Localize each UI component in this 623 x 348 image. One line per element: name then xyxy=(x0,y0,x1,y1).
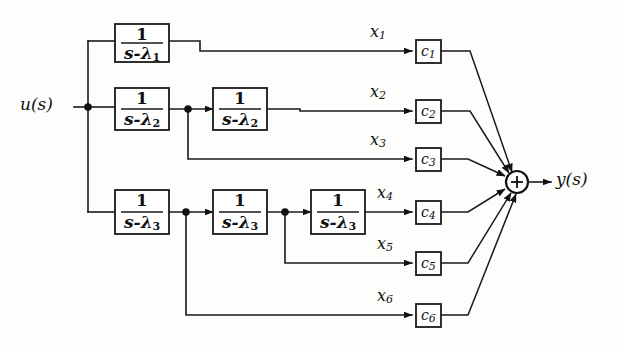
output-label: y(s) xyxy=(556,171,588,188)
summing-inputs xyxy=(441,51,516,315)
integrator-3a-numerator: 1 xyxy=(136,192,148,209)
row3-path xyxy=(169,212,412,315)
summing-junction xyxy=(506,171,528,193)
integrator-3c-den-sub: 3 xyxy=(349,220,357,233)
input-label: u(s) xyxy=(20,96,53,113)
state-label-x1: x1 xyxy=(370,24,386,41)
state-x4-base: x xyxy=(377,183,386,202)
gain-c3-base: c xyxy=(421,151,429,167)
state-label-x4: x4 xyxy=(377,185,393,202)
gain-c4-base: c xyxy=(421,204,429,220)
integrator-3a-denominator: s-λ3 xyxy=(124,214,160,232)
integrator-1-den-base: s-λ xyxy=(124,43,153,63)
state-x6-base: x xyxy=(377,286,386,305)
state-x6-sub: 6 xyxy=(386,293,393,306)
gain-c2-sub: 2 xyxy=(429,108,436,121)
integrator-3c-den-base: s-λ xyxy=(320,212,349,232)
integrator-3a-den-base: s-λ xyxy=(124,212,153,232)
state-label-x2: x2 xyxy=(370,84,386,101)
integrator-3b-denominator: s-λ3 xyxy=(222,214,258,232)
integrator-2b-den-sub: 2 xyxy=(251,117,259,130)
gain-label-c1: c1 xyxy=(421,44,436,60)
gain-label-c6: c6 xyxy=(421,308,436,324)
state-x3-sub: 3 xyxy=(379,137,386,150)
gain-label-c2: c2 xyxy=(421,104,436,120)
gain-label-c4: c4 xyxy=(421,205,436,221)
state-x5-sub: 5 xyxy=(386,241,393,254)
state-label-x3: x3 xyxy=(370,132,386,149)
integrator-1-numerator: 1 xyxy=(136,26,148,43)
integrator-2b-numerator: 1 xyxy=(234,90,246,107)
integrator-2b-denominator: s-λ2 xyxy=(222,111,258,129)
integrator-3b-den-sub: 3 xyxy=(251,220,259,233)
gain-c6-base: c xyxy=(421,307,429,323)
row1-path xyxy=(169,41,412,51)
gain-label-c5: c5 xyxy=(421,256,436,272)
integrator-3a-den-sub: 3 xyxy=(153,220,161,233)
integrator-1-den-sub: 1 xyxy=(153,51,161,64)
input-trunk xyxy=(74,41,115,212)
state-x3-base: x xyxy=(370,130,379,149)
junction-dot-after-int3a xyxy=(182,208,190,216)
state-x4-sub: 4 xyxy=(386,190,393,203)
state-x2-base: x xyxy=(370,82,379,101)
state-x2-sub: 2 xyxy=(379,89,386,102)
gain-c5-sub: 5 xyxy=(429,260,436,273)
integrator-2a-numerator: 1 xyxy=(136,90,148,107)
gain-c1-base: c xyxy=(421,43,429,59)
gain-c4-sub: 4 xyxy=(429,209,436,222)
block-diagram-figure: u(s) y(s) 1 s-λ1 1 s-λ2 1 s-λ2 1 s-λ3 1 … xyxy=(0,0,623,348)
integrator-2a-den-sub: 2 xyxy=(153,117,161,130)
state-x1-base: x xyxy=(370,22,379,41)
integrator-2a-den-base: s-λ xyxy=(124,109,153,129)
state-x5-base: x xyxy=(377,234,386,253)
state-x1-sub: 1 xyxy=(379,29,386,42)
gain-c5-base: c xyxy=(421,255,429,271)
integrator-2a-denominator: s-λ2 xyxy=(124,111,160,129)
state-label-x6: x6 xyxy=(377,288,393,305)
gain-c2-base: c xyxy=(421,103,429,119)
gain-label-c3: c3 xyxy=(421,152,436,168)
integrator-3b-den-base: s-λ xyxy=(222,212,251,232)
diagram-wires-layer xyxy=(0,0,623,348)
junction-dot-input xyxy=(84,103,92,111)
gain-c6-sub: 6 xyxy=(429,312,436,325)
junction-dot-after-int2a xyxy=(184,105,192,113)
gain-c1-sub: 1 xyxy=(429,48,436,61)
integrator-3c-denominator: s-λ3 xyxy=(320,214,356,232)
state-label-x5: x5 xyxy=(377,236,393,253)
gain-rects xyxy=(416,40,441,327)
gain-c3-sub: 3 xyxy=(429,156,436,169)
integrator-1-denominator: s-λ1 xyxy=(124,45,160,63)
integrator-3c-numerator: 1 xyxy=(332,192,344,209)
integrator-2b-den-base: s-λ xyxy=(222,109,251,129)
junction-dot-after-int3b xyxy=(281,208,289,216)
integrator-3b-numerator: 1 xyxy=(234,192,246,209)
